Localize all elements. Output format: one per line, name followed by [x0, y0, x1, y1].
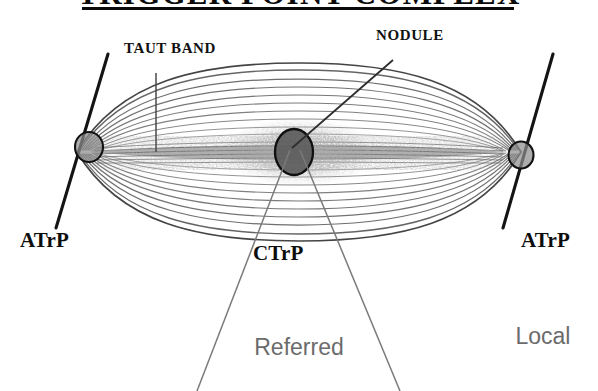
point-label-ctrp: CTrP	[253, 243, 304, 264]
point-label-atrp-left: ATrP	[20, 230, 69, 251]
callout-label-taut-band: TAUT BAND	[124, 41, 216, 56]
pain-label-local: Local Pain	[492, 272, 594, 391]
pain-label-referred-line1: Referred	[214, 335, 384, 361]
atrp-left-marker	[75, 132, 103, 162]
pain-label-local-line1: Local	[492, 324, 594, 350]
pain-label-referred: Referred Pain	[214, 283, 384, 391]
point-label-atrp-right: ATrP	[521, 230, 570, 251]
figure-canvas: TRIGGER POINT COMPLEX	[0, 0, 598, 391]
callout-label-nodule: NODULE	[376, 28, 444, 43]
atrp-right-marker	[509, 142, 534, 169]
atrp-right-needle	[503, 54, 553, 228]
